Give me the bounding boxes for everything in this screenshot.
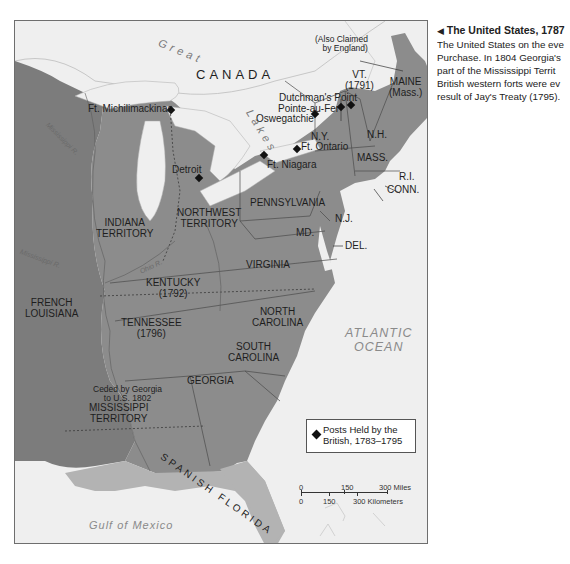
fort-label-ft-ontario: Ft. Ontario [301, 141, 348, 152]
vermont-year: (1791) [345, 80, 374, 91]
tennessee-label: TENNESSEE (1796) [121, 317, 182, 339]
northwest-line-1: NORTHWEST [177, 207, 241, 218]
new-jersey-label: N.J. [335, 213, 353, 224]
also-claimed-line-2: by England) [323, 43, 368, 53]
caption-title-row: ◀ The United States, 1787 [437, 24, 570, 38]
fort-label-dutchmans-point: Dutchman's Point [279, 92, 357, 103]
also-claimed-label: (Also Claimed by England) [315, 35, 368, 53]
vermont-name: VT. [352, 69, 366, 80]
indiana-territory-label: INDIANA TERRITORY [96, 217, 153, 239]
scale-km-0: 0 [299, 497, 303, 506]
fort-label-ft-niagara: Ft. Niagara [267, 159, 316, 170]
atlantic-ocean-label-1: ATLANTIC [345, 327, 413, 340]
scale-tick [387, 490, 388, 494]
fort-label-oswegatchie: Oswegatchie [256, 113, 314, 124]
scale-tick [329, 492, 330, 496]
map-caption: ◀ The United States, 1787 The United Sta… [437, 24, 570, 103]
northwest-line-2: TERRITORY [180, 218, 237, 229]
map-graphic [15, 21, 428, 544]
south-carolina-label: SOUTH CAROLINA [228, 341, 279, 363]
northwest-territory-label: NORTHWEST TERRITORY [177, 207, 241, 229]
french-louisiana-label: FRENCH LOUISIANA [25, 297, 78, 319]
scale-miles-150: 150 [341, 483, 354, 492]
scale-tick [301, 490, 302, 496]
indiana-line-1: INDIANA [104, 217, 145, 228]
maine-name: MAINE [390, 76, 422, 87]
new-hampshire-label: N.H. [367, 129, 387, 140]
fort-label-detroit: Detroit [172, 164, 201, 175]
caption-line: The United States on the eve [437, 38, 570, 51]
caption-line: Purchase. In 1804 Georgia's [437, 51, 570, 64]
scale-tick [344, 490, 345, 494]
delaware-label: DEL. [345, 240, 367, 251]
french-louisiana-line-1: FRENCH [31, 297, 73, 308]
scale-miles-300: 300 Miles [379, 483, 411, 492]
maine-note: (Mass.) [389, 87, 422, 98]
georgia-label: GEORGIA [187, 375, 234, 386]
scale-tick [357, 492, 358, 496]
north-carolina-label: NORTH CAROLINA [252, 306, 303, 328]
scale-bar: 0 150 300 Miles 0 150 300 Kilometers [299, 483, 428, 513]
caption-line: British western forts were ev [437, 77, 570, 90]
caption-line: result of Jay's Treaty (1795). [437, 90, 570, 103]
indiana-line-2: TERRITORY [96, 228, 153, 239]
maryland-label: MD. [296, 227, 314, 238]
caption-line: part of the Mississippi Territ [437, 64, 570, 77]
caption-title: The United States, 1787 [447, 24, 565, 36]
kentucky-name: KENTUCKY [146, 277, 200, 288]
map-legend: Posts Held by the British, 1783–1795 [306, 419, 416, 453]
mississippi-line-1: MISSISSIPPI [89, 402, 148, 413]
ceded-by-georgia-label: Ceded by Georgia to U.S. 1802 [93, 385, 162, 403]
atlantic-ocean-label-2: OCEAN [354, 341, 403, 354]
legend-line-1: Posts Held by the [323, 424, 397, 435]
scale-km-300: 300 Kilometers [353, 497, 403, 506]
mississippi-line-2: TERRITORY [90, 413, 147, 424]
connecticut-label: CONN. [387, 184, 419, 195]
legend-line-2: British, 1783–1795 [323, 435, 402, 446]
south-carolina-line-2: CAROLINA [228, 352, 279, 363]
virginia-label: VIRGINIA [246, 259, 290, 270]
maine-label: MAINE (Mass.) [389, 76, 422, 98]
scale-km-150: 150 [323, 497, 336, 506]
massachusetts-label: MASS. [357, 152, 388, 163]
caption-arrow-icon: ◀ [437, 26, 444, 36]
tennessee-year: (1796) [137, 328, 166, 339]
legend-text: Posts Held by the British, 1783–1795 [323, 424, 402, 446]
pennsylvania-label: PENNSYLVANIA [250, 197, 325, 208]
kentucky-label: KENTUCKY (1792) [146, 277, 200, 299]
kentucky-year: (1792) [159, 288, 188, 299]
canada-label: CANADA [196, 69, 274, 80]
map-frame: Great Lakes ATLANTIC OCEAN Gulf of Mexic… [14, 20, 428, 544]
french-louisiana-line-2: LOUISIANA [25, 308, 78, 319]
tennessee-name: TENNESSEE [121, 317, 182, 328]
north-carolina-line-2: CAROLINA [252, 317, 303, 328]
fort-diamond-icon [312, 430, 322, 440]
vermont-label: VT. (1791) [345, 69, 374, 91]
rhode-island-label: R.I. [399, 171, 415, 182]
mississippi-territory-label: MISSISSIPPI TERRITORY [89, 402, 148, 424]
south-carolina-line-1: SOUTH [236, 341, 271, 352]
north-carolina-line-1: NORTH [260, 306, 295, 317]
fort-label-michilimackinac: Ft. Michilimackinac [88, 103, 172, 114]
gulf-of-mexico-label: Gulf of Mexico [89, 519, 173, 532]
